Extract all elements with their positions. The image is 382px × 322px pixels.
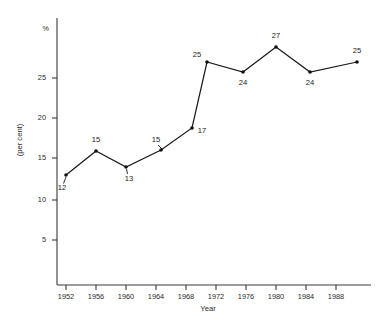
data-point-value-label: 15 <box>92 135 100 144</box>
data-point-value-label: 15 <box>152 135 160 144</box>
data-point-marker <box>241 70 245 74</box>
x-tick-label: 1952 <box>58 292 74 301</box>
data-point-marker <box>308 70 312 74</box>
x-tick-label: 1956 <box>88 292 104 301</box>
data-point-value-label: 17 <box>198 126 206 135</box>
x-tick-label: 1964 <box>148 292 164 301</box>
data-point-marker <box>205 60 209 64</box>
data-point-value-label: 25 <box>353 46 361 55</box>
data-point-value-label: 27 <box>272 31 280 40</box>
data-point-marker <box>274 45 278 49</box>
data-point-value-label: 13 <box>125 174 133 183</box>
data-point-marker <box>159 148 163 152</box>
y-tick-label: 5 <box>42 235 46 244</box>
x-tick-label: 1972 <box>208 292 224 301</box>
data-point-marker <box>355 60 359 64</box>
y-axis-unit-symbol: % <box>43 24 50 33</box>
line-chart: 510152025 195219561960196419681972197619… <box>0 0 382 322</box>
data-point-value-label: 24 <box>239 78 247 87</box>
x-tick-label: 1968 <box>178 292 194 301</box>
y-axis-title: (per cent) <box>15 123 24 156</box>
x-tick-label: 1980 <box>268 292 284 301</box>
x-tick-label: 1984 <box>298 292 314 301</box>
x-tick-label: 1960 <box>118 292 134 301</box>
data-point-marker <box>94 149 98 153</box>
chart-canvas: 510152025 195219561960196419681972197619… <box>0 0 382 322</box>
x-axis-title: Year <box>200 304 216 313</box>
y-tick-label: 15 <box>38 153 46 162</box>
x-tick-label: 1976 <box>238 292 254 301</box>
y-tick-label: 25 <box>38 73 46 82</box>
y-tick-label: 10 <box>38 195 46 204</box>
data-point-marker <box>64 173 68 177</box>
data-point-marker <box>124 165 128 169</box>
data-point-value-label: 24 <box>306 78 314 87</box>
y-tick-label: 20 <box>38 113 46 122</box>
x-tick-label: 1988 <box>328 292 344 301</box>
data-point-marker <box>190 126 194 130</box>
data-point-value-label: 25 <box>193 50 201 59</box>
data-point-value-label: 12 <box>58 183 66 192</box>
